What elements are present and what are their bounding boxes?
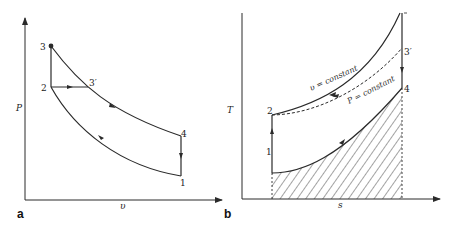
thermodynamic-cycle-figure: 3 2 3′ 4 1 P υ a υ = cons — [0, 0, 457, 230]
constant-volume-curve — [272, 13, 400, 115]
panel-a-point-3-label: 3 — [40, 42, 46, 52]
panel-b-label: b — [224, 207, 231, 221]
process-3-4-arrow-icon — [400, 67, 404, 73]
hatched-heat-rejection-area — [272, 88, 402, 199]
panel-b-ts-diagram: υ = constant P = constant 2 1 3′ 4 T s b — [224, 13, 440, 221]
panel-a-pv-diagram: 3 2 3′ 4 1 P υ a — [15, 18, 222, 221]
panel-b-point-4-label: 4 — [404, 84, 410, 94]
process-4-1-arrow-icon — [179, 153, 183, 159]
process-1-2-arrow-icon — [270, 128, 274, 134]
compression-curve-1-2 — [51, 87, 181, 176]
panel-a-y-axis-label: P — [15, 103, 23, 113]
panel-a-x-axis-label: υ — [120, 201, 126, 211]
panel-a-point-4-label: 4 — [181, 129, 187, 139]
panel-a-point-3prime-label: 3′ — [89, 78, 97, 88]
panel-b-x-axis-label: s — [338, 200, 343, 210]
panel-b-point-2-label: 2 — [267, 106, 273, 116]
expansion-arrow-icon — [109, 103, 116, 108]
panel-b-y-axis-label: T — [227, 105, 234, 115]
panel-b-point-3prime-label: 3′ — [404, 47, 412, 57]
compression-arrow-icon — [98, 135, 104, 140]
process-2-3prime-arrow-icon — [67, 85, 73, 89]
point-3-dot — [49, 44, 54, 49]
panel-a-point-1-label: 1 — [180, 178, 186, 188]
panel-a-point-2-label: 2 — [41, 83, 47, 93]
panel-a-label: a — [17, 207, 24, 221]
expansion-curve-3-4 — [51, 46, 181, 136]
panel-b-point-1-label: 1 — [266, 147, 272, 157]
